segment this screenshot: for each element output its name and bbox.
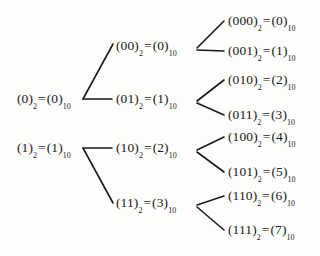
edge-1-to-11 — [83, 148, 113, 203]
node-111-binary: (111) — [228, 222, 257, 237]
edge-10-to-101 — [197, 152, 224, 172]
edge-01-to-010 — [197, 80, 224, 101]
subscript-base-2: 2 — [139, 49, 143, 58]
subscript-base-10: 10 — [168, 206, 176, 215]
equals-sign: = — [143, 91, 153, 106]
node-011-binary: (011) — [228, 107, 257, 122]
node-1-decimal: (1) — [47, 140, 63, 155]
equals-sign: = — [262, 129, 272, 144]
subscript-base-2: 2 — [33, 151, 37, 160]
edge-00-to-001 — [197, 50, 224, 51]
node-010-decimal: (2) — [271, 72, 287, 87]
subscript-base-2: 2 — [258, 175, 262, 184]
node-001-binary: (001) — [228, 43, 258, 58]
node-000-binary: (000) — [228, 13, 258, 28]
subscript-base-10: 10 — [287, 233, 295, 242]
equals-sign: = — [262, 164, 272, 179]
node-1-binary: (1) — [17, 140, 33, 155]
subscript-base-10: 10 — [288, 175, 296, 184]
edge-10-to-100 — [197, 137, 224, 150]
node-01-binary: (01) — [116, 91, 139, 106]
binary-tree-diagram: (0)2=(0)10 (1)2=(1)10 (00)2=(0)10 (01)2=… — [0, 0, 320, 256]
node-01: (01)2=(1)10 — [116, 92, 177, 109]
node-101-decimal: (5) — [271, 164, 287, 179]
subscript-base-2: 2 — [138, 206, 142, 215]
equals-sign: = — [262, 13, 272, 28]
subscript-base-10: 10 — [288, 24, 296, 33]
subscript-base-2: 2 — [257, 233, 261, 242]
node-110-binary: (110) — [228, 188, 257, 203]
node-100-binary: (100) — [228, 129, 258, 144]
subscript-base-10: 10 — [288, 54, 296, 63]
node-011-decimal: (3) — [271, 107, 287, 122]
subscript-base-10: 10 — [287, 199, 295, 208]
equals-sign: = — [262, 72, 272, 87]
subscript-base-10: 10 — [169, 102, 177, 111]
node-00-binary: (00) — [116, 38, 139, 53]
subscript-base-2: 2 — [258, 83, 262, 92]
node-011: (011)2=(3)10 — [228, 108, 295, 125]
equals-sign: = — [142, 195, 152, 210]
subscript-base-2: 2 — [139, 151, 143, 160]
node-010: (010)2=(2)10 — [228, 73, 296, 90]
edge-0-to-00 — [83, 44, 113, 99]
node-01-decimal: (1) — [153, 91, 169, 106]
node-00: (00)2=(0)10 — [116, 39, 177, 56]
subscript-base-2: 2 — [258, 24, 262, 33]
equals-sign: = — [261, 222, 271, 237]
subscript-base-2: 2 — [258, 140, 262, 149]
node-0-decimal: (0) — [47, 91, 63, 106]
subscript-base-2: 2 — [257, 199, 261, 208]
node-110: (110)2=(6)10 — [228, 189, 295, 206]
node-11-binary: (11) — [116, 195, 138, 210]
node-000-decimal: (0) — [271, 13, 287, 28]
node-111: (111)2=(7)10 — [228, 223, 295, 240]
node-10-binary: (10) — [116, 140, 139, 155]
subscript-base-10: 10 — [169, 151, 177, 160]
equals-sign: = — [37, 140, 47, 155]
node-000: (000)2=(0)10 — [228, 14, 296, 31]
node-010-binary: (010) — [228, 72, 258, 87]
subscript-base-2: 2 — [33, 102, 37, 111]
node-100-decimal: (4) — [271, 129, 287, 144]
equals-sign: = — [143, 140, 153, 155]
edge-11-to-110 — [197, 196, 224, 205]
node-001-decimal: (1) — [271, 43, 287, 58]
node-100: (100)2=(4)10 — [228, 130, 296, 147]
equals-sign: = — [261, 188, 271, 203]
subscript-base-2: 2 — [139, 102, 143, 111]
node-0-binary: (0) — [17, 91, 33, 106]
subscript-base-10: 10 — [288, 140, 296, 149]
subscript-base-10: 10 — [287, 118, 295, 127]
node-11: (11)2=(3)10 — [116, 196, 176, 213]
node-110-decimal: (6) — [271, 188, 287, 203]
node-111-decimal: (7) — [270, 222, 286, 237]
node-10-decimal: (2) — [153, 140, 169, 155]
equals-sign: = — [37, 91, 47, 106]
node-11-decimal: (3) — [152, 195, 168, 210]
equals-sign: = — [261, 107, 271, 122]
edge-00-to-000 — [197, 21, 224, 48]
node-00-decimal: (0) — [153, 38, 169, 53]
subscript-base-2: 2 — [257, 118, 261, 127]
equals-sign: = — [143, 38, 153, 53]
subscript-base-10: 10 — [169, 49, 177, 58]
subscript-base-10: 10 — [288, 83, 296, 92]
subscript-base-10: 10 — [63, 151, 71, 160]
node-101-binary: (101) — [228, 164, 258, 179]
subscript-base-2: 2 — [258, 54, 262, 63]
edge-01-to-011 — [197, 103, 224, 115]
subscript-base-10: 10 — [63, 102, 71, 111]
node-1: (1)2=(1)10 — [17, 141, 71, 158]
edge-11-to-111 — [197, 207, 224, 230]
node-0: (0)2=(0)10 — [17, 92, 71, 109]
equals-sign: = — [262, 43, 272, 58]
node-101: (101)2=(5)10 — [228, 165, 296, 182]
node-10: (10)2=(2)10 — [116, 141, 177, 158]
node-001: (001)2=(1)10 — [228, 44, 296, 61]
